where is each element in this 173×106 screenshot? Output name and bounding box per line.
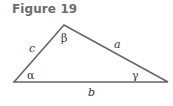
side-c-label: c bbox=[29, 42, 35, 55]
angle-alpha-label: α bbox=[27, 69, 35, 82]
side-b-label: b bbox=[88, 86, 95, 99]
triangle bbox=[14, 25, 168, 82]
triangle-diagram: c β a α γ b bbox=[0, 0, 173, 106]
side-a-label: a bbox=[114, 38, 121, 51]
angle-gamma-label: γ bbox=[132, 69, 139, 82]
angle-beta-label: β bbox=[61, 32, 67, 45]
